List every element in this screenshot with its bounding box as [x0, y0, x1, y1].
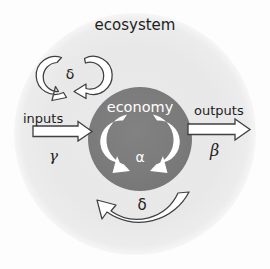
beta-symbol-label: β — [210, 143, 219, 159]
delta-bottom-symbol-label: δ — [130, 198, 154, 213]
alpha-symbol-label: α — [126, 150, 154, 164]
figure-canvas: ecosystem economy inputs outputs γ β α δ… — [0, 0, 270, 269]
economy-label: economy — [88, 100, 192, 115]
delta-top-symbol-label: δ — [58, 67, 82, 81]
gamma-symbol-label: γ — [49, 149, 58, 164]
outputs-label: outputs — [194, 104, 244, 117]
inputs-label: inputs — [23, 112, 63, 125]
ecosystem-label: ecosystem — [0, 18, 270, 33]
diagram-svg — [0, 0, 270, 269]
